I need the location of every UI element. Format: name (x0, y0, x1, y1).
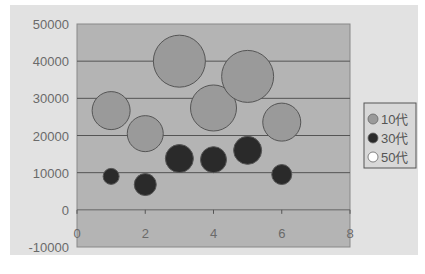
bubble (222, 50, 274, 102)
x-tick-label: 8 (346, 226, 353, 241)
y-tick-label: 0 (62, 203, 69, 218)
legend-marker-icon (368, 133, 378, 143)
legend-label: 30代 (381, 131, 408, 146)
y-tick-label: 40000 (33, 54, 69, 69)
y-tick-label: -10000 (29, 240, 69, 255)
y-tick-label: 20000 (33, 129, 69, 144)
bubble (234, 136, 262, 164)
bubble (201, 147, 227, 173)
y-axis: -1000001000020000300004000050000 (29, 17, 69, 255)
x-tick-label: 6 (278, 226, 285, 241)
bubble (92, 92, 130, 130)
legend: 10代30代50代 (364, 103, 416, 168)
bubble (127, 116, 163, 152)
legend-marker-icon (368, 114, 378, 124)
bubble (272, 165, 292, 185)
y-tick-label: 10000 (33, 166, 69, 181)
bubble-chart: -1000001000020000300004000050000 02468 1… (0, 0, 425, 274)
bubble (263, 103, 301, 141)
x-tick-label: 2 (142, 226, 149, 241)
bubble (165, 145, 193, 173)
x-tick-label: 0 (73, 226, 80, 241)
legend-label: 50代 (381, 150, 408, 165)
legend-marker-icon (368, 152, 378, 162)
legend-label: 10代 (381, 112, 408, 127)
bubble (134, 174, 156, 196)
bubble (103, 168, 119, 184)
y-tick-label: 50000 (33, 17, 69, 32)
y-tick-label: 30000 (33, 91, 69, 106)
x-tick-label: 4 (210, 226, 217, 241)
bubble (153, 35, 205, 87)
